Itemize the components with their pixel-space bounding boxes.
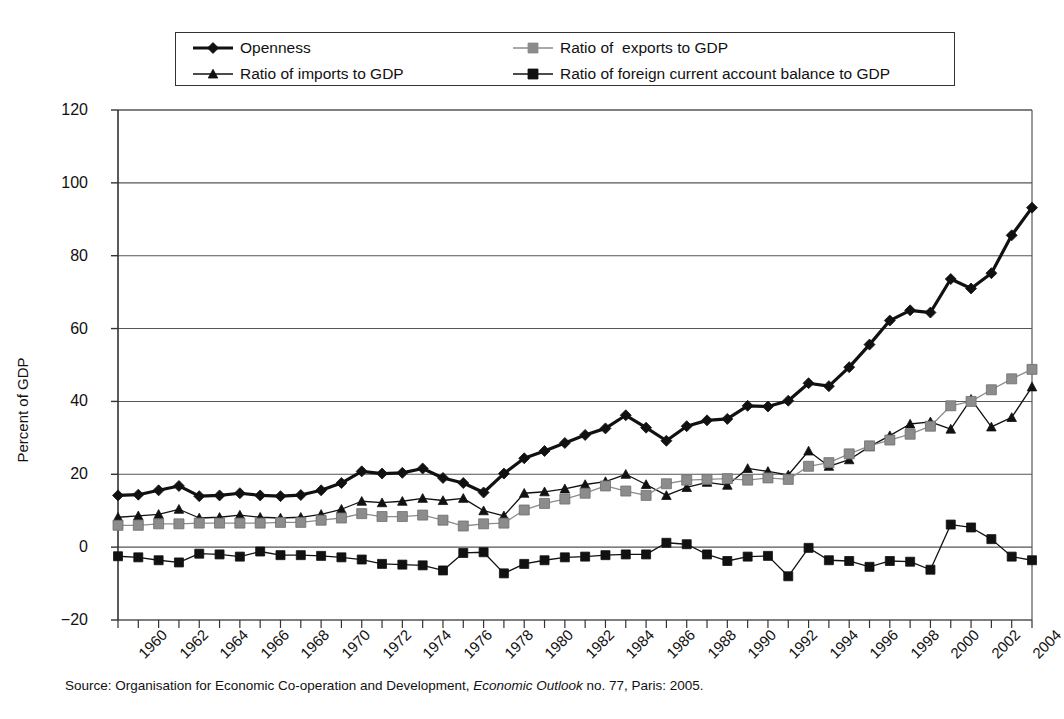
series-marker [885,556,894,565]
series-marker [215,550,224,559]
series-ratio-of-imports-to-gdp [113,382,1037,522]
series-marker [702,474,712,484]
series-marker [114,552,123,561]
series-marker [153,485,164,496]
x-axis-tick-label: 1974 [419,626,455,662]
series-marker [986,385,996,395]
series-marker [418,561,427,570]
series-marker [906,557,915,566]
series-marker [194,491,205,502]
x-axis-tick-label: 1996 [866,626,902,662]
series-marker [459,494,469,503]
series-marker [946,520,955,529]
x-axis-tick-label: 1970 [338,626,374,662]
series-marker [905,429,915,439]
series-marker [926,565,935,574]
series-marker [235,552,244,561]
series-marker [337,553,346,562]
series-marker [682,540,691,549]
series-marker [336,513,346,523]
series-marker [601,551,610,560]
series-marker [214,490,225,501]
series-marker [276,551,285,560]
series-line [118,525,1032,577]
series-marker [438,515,448,525]
series-marker [377,468,388,479]
series-marker [925,421,935,431]
series-ratio-of-exports-to-gdp [113,364,1037,531]
series-marker [844,449,854,459]
series-marker [499,569,508,578]
series-marker [1007,552,1016,561]
x-axis-tick-label: 1984 [622,626,658,662]
x-axis-tick-label: 1962 [175,626,211,662]
series-marker [458,478,469,489]
series-marker [762,401,773,412]
series-marker [804,461,814,471]
series-marker [459,548,468,557]
series-marker [662,538,671,547]
x-axis-tick-label: 2000 [947,626,983,662]
series-marker [317,551,326,560]
series-marker [559,437,570,448]
series-marker [641,480,651,489]
series-marker [215,518,225,528]
series-marker [1028,556,1037,565]
series-marker [824,458,834,468]
series-marker [540,556,549,565]
series-marker [560,553,569,562]
series-marker [1007,413,1017,422]
series-marker [255,490,266,501]
series-marker [661,479,671,489]
x-axis-tick-label: 1976 [460,626,496,662]
series-marker [722,474,732,484]
series-marker [946,424,956,433]
series-marker [519,505,529,515]
series-marker [296,517,306,527]
series-marker [397,512,407,522]
series-marker [946,401,956,411]
series-marker [763,551,772,560]
series-marker [174,558,183,567]
series-marker [275,517,285,527]
series-marker [743,464,753,473]
series-line [118,387,1032,518]
x-axis-tick-label: 1966 [257,626,293,662]
series-marker [113,490,124,501]
series-marker [377,512,387,522]
series-marker [417,463,428,474]
series-marker [662,491,672,500]
series-line [118,208,1032,497]
x-axis-tick-label: 1982 [582,626,618,662]
series-marker [295,490,306,501]
x-axis-tick-labels: 1960196219641966196819701972197419761978… [0,622,1059,678]
series-marker [540,498,550,508]
series-marker [418,510,428,520]
series-marker [458,521,468,531]
x-axis-tick-label: 1978 [500,626,536,662]
series-marker [804,446,814,455]
series-marker [316,515,326,525]
series-marker [154,519,164,529]
series-marker [235,518,245,528]
series-marker [621,550,630,559]
series-marker [641,490,651,500]
series-marker [600,481,610,491]
series-openness [113,202,1038,502]
series-marker [397,467,408,478]
x-axis-tick-label: 1960 [135,626,171,662]
series-marker [763,473,773,483]
x-axis-tick-label: 1998 [907,626,943,662]
source-suffix: no. 77, Paris: 2005. [583,678,704,693]
series-marker [865,562,874,571]
series-marker [398,560,407,569]
series-marker [703,550,712,559]
x-axis-tick-label: 1992 [785,626,821,662]
x-axis-tick-label: 1988 [703,626,739,662]
series-marker [642,550,651,559]
series-marker [743,475,753,485]
series-marker [134,553,143,562]
series-marker [723,556,732,565]
